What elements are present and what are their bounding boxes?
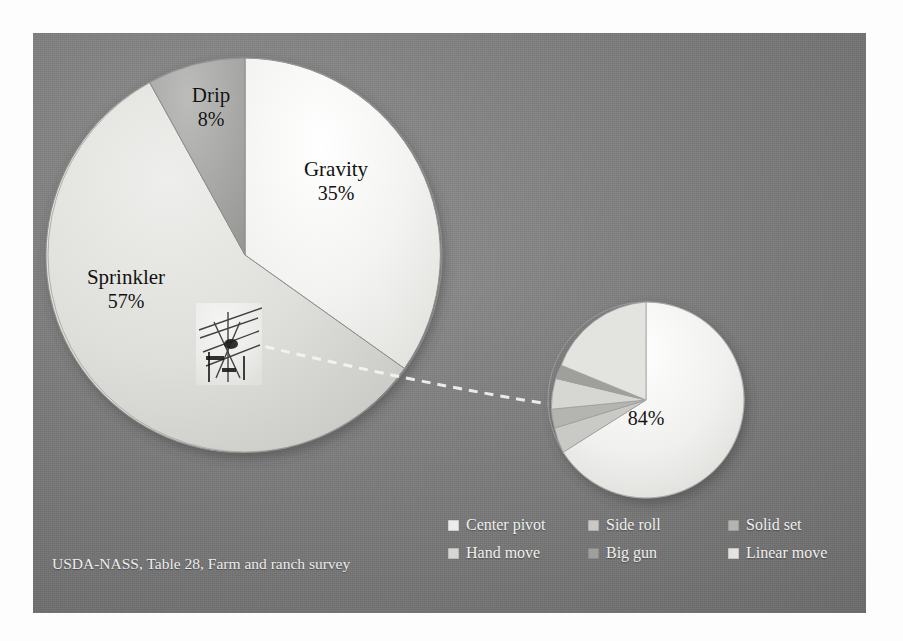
legend-item-side-roll[interactable]: Side roll <box>588 516 728 534</box>
legend-label-solid-set: Solid set <box>746 516 802 534</box>
legend: Center pivot Side roll Solid set Hand mo… <box>448 512 858 566</box>
main-pie-label-sprinkler-value: 57% <box>56 290 196 312</box>
main-pie-label-drip-value: 8% <box>151 108 271 130</box>
legend-item-center-pivot[interactable]: Center pivot <box>448 516 588 534</box>
legend-item-big-gun[interactable]: Big gun <box>588 544 728 562</box>
legend-item-hand-move[interactable]: Hand move <box>448 544 588 562</box>
legend-item-linear-move[interactable]: Linear move <box>728 544 858 562</box>
small-pie-label-center-pivot-value: 84% <box>596 407 696 429</box>
main-pie-label-gravity: Gravity 35% <box>276 158 396 204</box>
main-pie-label-sprinkler: Sprinkler 57% <box>56 266 196 312</box>
main-pie-label-gravity-name: Gravity <box>276 158 396 182</box>
legend-swatch-side-roll <box>588 520 599 531</box>
legend-swatch-solid-set <box>728 520 739 531</box>
page-canvas: Gravity 35% Drip 8% Sprinkler 57% 84% Ce… <box>0 0 903 641</box>
legend-swatch-center-pivot <box>448 520 459 531</box>
main-pie-label-gravity-value: 35% <box>276 182 396 204</box>
legend-swatch-big-gun <box>588 548 599 559</box>
source-caption: USDA-NASS, Table 28, Farm and ranch surv… <box>52 555 350 573</box>
main-pie-label-drip-name: Drip <box>151 84 271 108</box>
legend-label-center-pivot: Center pivot <box>466 516 546 534</box>
inset-photo-graphic <box>196 303 262 385</box>
legend-item-solid-set[interactable]: Solid set <box>728 516 858 534</box>
main-pie-label-drip: Drip 8% <box>151 84 271 130</box>
legend-swatch-linear-move <box>728 548 739 559</box>
legend-label-linear-move: Linear move <box>746 544 827 562</box>
legend-label-big-gun: Big gun <box>606 544 657 562</box>
legend-label-side-roll: Side roll <box>606 516 661 534</box>
main-pie-label-sprinkler-name: Sprinkler <box>56 266 196 290</box>
legend-label-hand-move: Hand move <box>466 544 540 562</box>
legend-swatch-hand-move <box>448 548 459 559</box>
small-pie-chart <box>548 302 744 498</box>
